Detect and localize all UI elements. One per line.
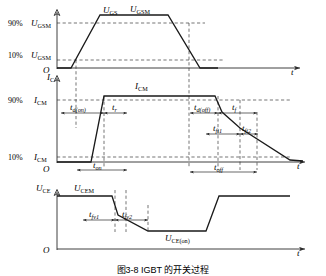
- label-tfi2: tfi2: [242, 123, 251, 134]
- ic-plateau-label: ICM: [134, 81, 148, 92]
- ugs-90pct-label: 90%: [8, 19, 23, 28]
- label-tfv2: tfv2: [122, 209, 132, 220]
- uce-origin-label: O: [43, 245, 50, 255]
- label-tf: tf: [232, 102, 238, 113]
- label-td-off: td(off): [194, 102, 210, 114]
- uce-on-state-label: UCE(on): [165, 233, 190, 245]
- panel-uce: UCE UCEM UCE(on) O t tfv1 tfv2: [36, 183, 305, 258]
- ic-origin-label: O: [43, 164, 50, 174]
- ugs-90pct-value: UGSM: [31, 18, 51, 29]
- ugs-10pct-label: 10%: [8, 51, 23, 60]
- panel-ic: IC ICM 90% ICM 10% ICM O t td(on) tr: [8, 72, 305, 174]
- figure-caption: 图3-8 IGBT 的开关过程: [117, 264, 210, 275]
- label-tfv1: tfv1: [89, 209, 99, 220]
- ic-10pct-label: 10%: [8, 153, 23, 162]
- ic-x-axis-title: t: [297, 161, 300, 171]
- ic-90pct-value: ICM: [33, 95, 47, 106]
- uce-y-axis-title: UCE: [36, 183, 51, 194]
- label-toff: toff: [214, 162, 224, 173]
- ic-10pct-value: ICM: [33, 152, 47, 163]
- label-tfi1: tfi1: [213, 123, 222, 134]
- ugs-10pct-value: UGSM: [31, 50, 51, 61]
- waveform-svg: UGS UGSM 90% UGSM 10% UGSM O t: [0, 0, 326, 276]
- ugs-x-axis-title: t: [291, 67, 294, 77]
- label-td-on: td(on): [70, 102, 86, 114]
- ugs-y-axis-title: UGS: [103, 5, 118, 16]
- uce-x-axis-title: t: [297, 248, 300, 258]
- ugs-plateau-label: UGSM: [130, 4, 150, 15]
- ic-waveform: [57, 96, 303, 162]
- igbt-switching-figure: UGS UGSM 90% UGSM 10% UGSM O t: [0, 0, 326, 276]
- label-tr: tr: [112, 102, 118, 113]
- panel-ugs: UGS UGSM 90% UGSM 10% UGSM O t: [8, 4, 300, 168]
- uce-plateau-label: UCEM: [74, 183, 94, 194]
- ic-90pct-label: 90%: [8, 96, 23, 105]
- ic-y-axis-title: IC: [46, 72, 54, 83]
